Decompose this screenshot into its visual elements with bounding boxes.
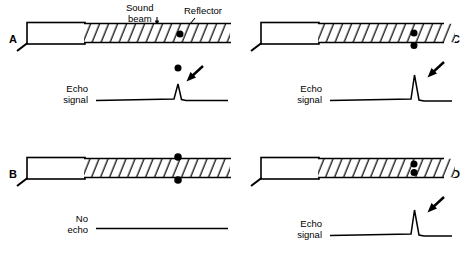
echo-trace: [96, 84, 228, 101]
reflector-dot-in-beam-a: [177, 31, 184, 38]
transducer-body: [27, 158, 85, 180]
echo-pointer-arrow-a: [187, 66, 204, 82]
echo-signal-label-line1: Echo: [66, 83, 88, 94]
transducer-probe-b: [17, 158, 85, 187]
echo-signal-label-line1: Echo: [300, 83, 322, 94]
sound-beam-a: [84, 24, 231, 43]
transducer-body: [27, 23, 85, 45]
echo-trace: [330, 210, 452, 236]
no-echo-signal-b: No echo: [67, 213, 228, 235]
echo-signal-c: Echo signal: [297, 62, 452, 105]
panel-d: D Echo signal: [251, 158, 460, 241]
echo-trace: [330, 75, 452, 101]
panel-b: B No echo: [9, 153, 231, 235]
echo-marker-dot-a: [175, 65, 182, 72]
reflector-dot-upper-in-beam-d: [411, 161, 418, 168]
transducer-body: [261, 23, 319, 45]
transducer-cable: [251, 178, 262, 186]
reflector-dot-below-beam-b: [174, 176, 182, 184]
sound-beam-label-line2: beam: [128, 13, 152, 24]
reflector-label: Reflector: [184, 5, 222, 16]
beam-hatch-fill: [84, 24, 230, 43]
transducer-cable: [251, 43, 262, 51]
echo-signal-d: Echo signal: [297, 197, 452, 240]
panel-letter-b: B: [9, 168, 17, 180]
transducer-cable: [17, 178, 28, 186]
transducer-body: [261, 158, 319, 180]
reflector-dot-in-beam-c: [411, 30, 418, 37]
sound-beam-label-line1: Sound: [126, 2, 153, 13]
reflector-dot-lower-in-beam-d: [411, 169, 418, 176]
transducer-cable: [17, 43, 28, 51]
beam-hatch-fill: [318, 24, 455, 43]
panel-c: C Echo signal: [251, 23, 460, 106]
sound-beam-b: [84, 159, 231, 178]
echo-pointer-arrow-c: [428, 62, 445, 78]
echo-signal-label-line1: Echo: [300, 218, 322, 229]
reflector-dot-at-lower-edge-c: [411, 42, 418, 49]
transducer-probe-c: [251, 23, 319, 52]
no-echo-label-line2: echo: [67, 224, 88, 235]
beam-hatch-fill: [318, 159, 455, 178]
sound-beam-d: [318, 159, 455, 178]
panel-letter-a: A: [9, 33, 17, 45]
panel-a: A Sound beam Reflector: [9, 2, 231, 105]
beam-hatch-fill: [84, 159, 230, 178]
sound-beam-c: [318, 24, 455, 43]
echo-signal-a: Echo signal: [63, 65, 228, 106]
no-echo-label-line1: No: [76, 213, 88, 224]
transducer-probe-d: [251, 158, 319, 187]
echo-pointer-arrow-d: [428, 197, 445, 213]
echo-signal-label-line2: signal: [63, 94, 88, 105]
echo-signal-label-line2: signal: [297, 94, 322, 105]
diagram-figure: A Sound beam Reflector: [0, 0, 469, 254]
reflector-dot-above-beam-b: [174, 153, 182, 161]
echo-signal-label-line2: signal: [297, 229, 322, 240]
transducer-probe-a: [17, 23, 85, 52]
